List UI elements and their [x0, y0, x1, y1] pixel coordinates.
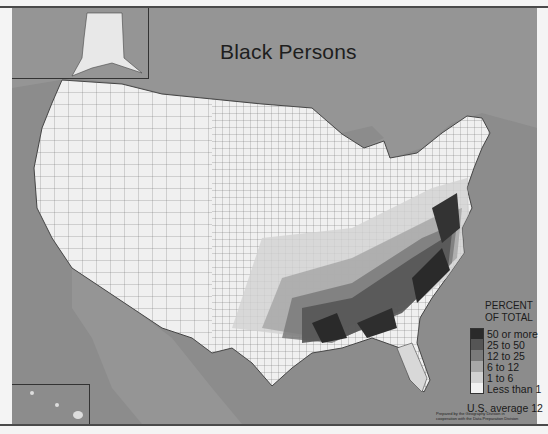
legend-swatch [470, 383, 484, 394]
credit-line2: cooperation with the Data Preparation Di… [436, 416, 518, 421]
legend-swatch [470, 361, 484, 372]
legend-item: 1 to 6 [470, 372, 541, 383]
legend-item: 25 to 50 [470, 339, 541, 350]
credit-note: Prepared by the Geography Division in co… [436, 411, 518, 421]
legend-swatch [470, 328, 484, 339]
legend-item: 50 or more [470, 328, 541, 339]
legend: 50 or more 25 to 50 12 to 25 6 to 12 1 t… [470, 328, 541, 394]
legend-title-line1: PERCENT [470, 300, 548, 312]
map-title: Black Persons [220, 40, 357, 64]
legend-swatch [470, 350, 484, 361]
top-border [0, 0, 548, 8]
legend-title-line2: OF TOTAL [470, 312, 548, 324]
legend-item: Less than 1 [470, 383, 541, 394]
legend-swatch [470, 372, 484, 383]
legend-title: PERCENT OF TOTAL [470, 300, 548, 324]
bottom-border [0, 424, 548, 434]
alaska-map [12, 8, 149, 79]
legend-swatch [470, 339, 484, 350]
legend-label: Less than 1 [487, 383, 541, 395]
legend-item: 6 to 12 [470, 361, 541, 372]
hawaii-inset [12, 384, 90, 424]
hawaii-map [12, 385, 90, 425]
alaska-inset [12, 8, 149, 79]
legend-item: 12 to 25 [470, 350, 541, 361]
